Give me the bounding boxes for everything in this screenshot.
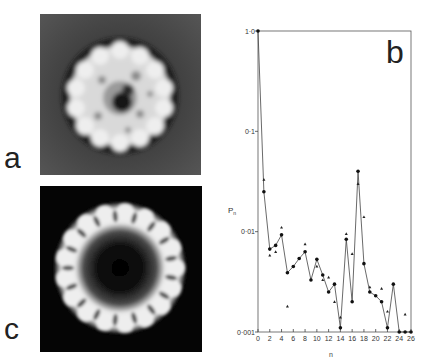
data-point-circle	[280, 233, 284, 237]
x-tick-label: 20	[372, 335, 380, 342]
data-point-triangle	[386, 310, 389, 313]
chart-series-circles	[256, 29, 413, 334]
data-point-triangle	[268, 254, 271, 257]
x-tick-label: 10	[313, 335, 321, 342]
data-point-triangle	[362, 215, 365, 218]
data-point-triangle	[380, 287, 383, 290]
data-point-triangle	[404, 313, 407, 316]
y-tick-label: 0·001	[237, 329, 255, 336]
data-point-circle	[403, 330, 407, 334]
data-point-circle	[297, 257, 301, 261]
micrograph-a	[40, 14, 201, 175]
x-tick-label: 24	[395, 335, 403, 342]
data-point-circle	[386, 326, 390, 330]
y-tick-label: 0·1	[245, 128, 255, 135]
data-point-circle	[292, 265, 296, 269]
panel-label-b: b	[386, 36, 404, 68]
data-point-circle	[350, 300, 354, 304]
x-tick-label: 4	[280, 335, 284, 342]
data-point-circle	[274, 244, 278, 248]
data-point-circle	[368, 290, 372, 294]
x-tick-label: 18	[360, 335, 368, 342]
x-tick-label: 26	[407, 335, 415, 342]
data-point-circle	[409, 330, 413, 334]
x-axis-label: n	[329, 351, 333, 358]
x-tick-label: 12	[325, 335, 333, 342]
x-tick-label: 16	[348, 335, 356, 342]
data-point-circle	[268, 247, 272, 251]
data-point-circle	[380, 300, 384, 304]
data-point-circle	[339, 326, 343, 330]
data-point-triangle	[333, 300, 336, 303]
series-line	[258, 31, 411, 332]
y-axis-label: Pn	[228, 206, 236, 216]
x-tick-label: 6	[291, 335, 295, 342]
micrograph-a-image	[40, 14, 201, 175]
y-tick-label: 0·01	[241, 228, 255, 235]
y-tick-label: 1·0	[245, 28, 255, 35]
x-tick-label: 22	[384, 335, 392, 342]
data-point-triangle	[345, 232, 348, 235]
data-point-circle	[309, 278, 313, 282]
data-point-triangle	[304, 243, 307, 246]
data-point-triangle	[286, 305, 289, 308]
data-point-triangle	[351, 252, 354, 255]
data-point-circle	[333, 282, 337, 286]
data-point-triangle	[262, 178, 265, 181]
micrograph-c	[40, 186, 202, 352]
data-point-circle	[262, 190, 266, 194]
x-tick-label: 8	[303, 335, 307, 342]
data-point-circle	[327, 290, 331, 294]
data-point-triangle	[280, 226, 283, 229]
data-point-triangle	[315, 265, 318, 268]
data-point-triangle	[327, 276, 330, 279]
panel-label-a: a	[4, 143, 21, 173]
x-tick-label: 14	[336, 335, 344, 342]
data-point-circle	[321, 273, 325, 277]
data-point-circle	[315, 258, 319, 262]
x-tick-label: 0	[256, 335, 260, 342]
data-point-circle	[256, 29, 260, 33]
data-point-circle	[374, 294, 378, 298]
data-point-circle	[362, 262, 366, 266]
micrograph-c-image	[40, 186, 202, 352]
data-point-circle	[303, 250, 307, 254]
data-point-triangle	[274, 250, 277, 253]
data-point-circle	[344, 237, 348, 241]
x-tick-label: 2	[268, 335, 272, 342]
data-point-circle	[397, 330, 401, 334]
data-point-circle	[392, 282, 396, 286]
data-point-circle	[286, 271, 290, 275]
data-point-circle	[356, 169, 360, 173]
panel-label-c: c	[4, 314, 19, 344]
